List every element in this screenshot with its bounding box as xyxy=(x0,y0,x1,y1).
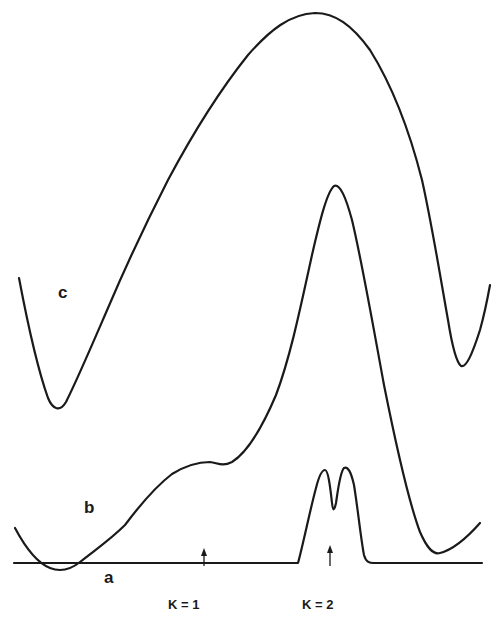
curve-c xyxy=(19,13,490,408)
k2-arrow-icon xyxy=(327,545,333,566)
k2-label: K = 2 xyxy=(302,597,333,612)
figure-panel: c b a K = 1 K = 2 xyxy=(0,0,494,624)
chart-svg: c b a K = 1 K = 2 xyxy=(0,0,494,624)
curve-a-label: a xyxy=(104,568,114,587)
k1-label: K = 1 xyxy=(168,597,199,612)
curve-c-label: c xyxy=(58,283,67,302)
curve-b-label: b xyxy=(84,498,94,517)
